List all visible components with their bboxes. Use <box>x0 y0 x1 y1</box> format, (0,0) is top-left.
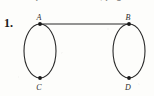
figure-page: Chapter Exercises, page 560 1. A B C D <box>0 0 154 96</box>
edge-A-C-cycle <box>24 24 56 78</box>
vertex-label-D: D <box>124 83 131 92</box>
vertex-dot-B <box>127 22 131 26</box>
vertex-label-C: C <box>36 83 42 92</box>
vertex-dot-D <box>127 76 131 80</box>
vertex-label-B: B <box>126 13 131 22</box>
vertex-dot-C <box>38 76 42 80</box>
vertex-dot-A <box>38 22 42 26</box>
edge-B-D-cycle <box>113 24 145 78</box>
graph-figure: A B C D <box>0 0 154 96</box>
vertex-label-A: A <box>36 13 42 22</box>
